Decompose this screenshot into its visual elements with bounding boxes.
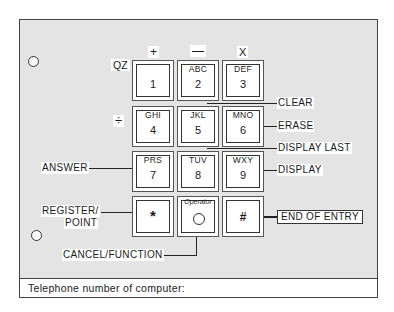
clear-leader-line (207, 103, 277, 104)
end-of-entry-leader-line (264, 216, 277, 218)
key-letters: WXY (223, 155, 263, 165)
callout-register: REGISTER/ (41, 205, 100, 217)
asterisk-icon: * (133, 207, 173, 224)
callout-cancel-function: CANCEL/FUNCTION (62, 249, 164, 261)
mounting-hole-bottom-icon (31, 230, 42, 241)
cancel-leader-vertical (196, 237, 197, 255)
callout-clear: CLEAR (277, 97, 314, 109)
key-digit: 2 (178, 78, 218, 90)
display-leader-line (264, 170, 277, 171)
key-2[interactable]: ABC 2 (177, 60, 219, 101)
callout-display: DISPLAY (277, 164, 323, 176)
key-digit: 1 (133, 78, 173, 90)
key-3[interactable]: DEF 3 (222, 60, 264, 101)
key-9[interactable]: WXY 9 (222, 151, 264, 192)
operator-zero-icon (193, 213, 205, 225)
key-digit: 7 (133, 169, 173, 181)
callout-erase: ERASE (277, 120, 314, 132)
key-digit: 8 (178, 169, 218, 181)
key-digit: 6 (223, 124, 263, 136)
key-digit: 9 (223, 169, 263, 181)
key-letters: ABC (178, 64, 218, 74)
key-letters: TUV (178, 155, 218, 165)
callout-point: POINT (64, 217, 98, 229)
key-digit: 4 (133, 124, 173, 136)
erase-leader-line (264, 126, 277, 127)
key-pound[interactable]: # (222, 196, 264, 237)
operator-arc-label: Operator (178, 198, 218, 205)
operator-multiply: X (237, 46, 248, 58)
key-star[interactable]: * (132, 196, 174, 237)
operator-divide: ÷ (113, 115, 124, 127)
cancel-leader-horizontal (162, 255, 197, 256)
key-7[interactable]: PRS 7 (132, 151, 174, 192)
pound-icon: # (223, 210, 263, 224)
key-1[interactable]: 1 (132, 60, 174, 101)
operator-plus: + (148, 46, 159, 58)
display-last-leader-line (207, 148, 277, 149)
key-operator[interactable]: Operator (177, 196, 219, 237)
footer-telephone-number: Telephone number of computer: (20, 279, 377, 297)
key-letters: DEF (223, 64, 263, 74)
key-digit: 5 (178, 124, 218, 136)
key-letters: JKL (178, 110, 218, 120)
key-digit: 3 (223, 78, 263, 90)
register-leader-line (101, 212, 132, 213)
key-6[interactable]: MNO 6 (222, 106, 264, 147)
key-letters: PRS (133, 155, 173, 165)
operator-qz: QZ (111, 59, 130, 71)
key-letters: MNO (223, 110, 263, 120)
key-4[interactable]: GHI 4 (132, 106, 174, 147)
callout-display-last: DISPLAY LAST (277, 142, 352, 154)
operator-minus: — (190, 45, 206, 57)
answer-leader-line (87, 168, 132, 169)
key-8[interactable]: TUV 8 (177, 151, 219, 192)
key-letters: GHI (133, 110, 173, 120)
key-5[interactable]: JKL 5 (177, 106, 219, 147)
callout-answer: ANSWER (41, 162, 89, 174)
callout-end-of-entry: END OF ENTRY (277, 210, 363, 224)
mounting-hole-top-icon (28, 56, 39, 67)
footer-label: Telephone number of computer: (28, 282, 185, 294)
